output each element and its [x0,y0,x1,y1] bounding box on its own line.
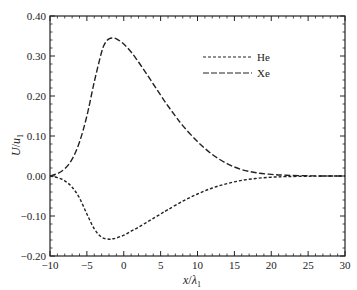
y-axis-label: U/u1 [9,134,25,156]
legend-label-xe: Xe [257,67,270,79]
legend: He Xe [203,51,270,79]
x-tick-labels: −10−5051015202530 [41,259,351,271]
plot-frame [50,16,345,256]
x-tick-label: 5 [158,259,164,271]
major-ticks [50,16,345,256]
x-tick-label: 30 [340,259,352,271]
y-tick-label: −0.20 [21,250,47,262]
y-tick-label: 0.30 [27,50,47,62]
x-tick-label: 25 [303,259,315,271]
y-tick-label: −0.10 [21,210,47,222]
series-line-xe [50,38,345,176]
line-chart: −10−5051015202530 −0.20−0.100.000.100.20… [0,0,357,290]
x-tick-label: 20 [266,259,278,271]
x-tick-label: 0 [121,259,127,271]
x-tick-label: 10 [192,259,204,271]
x-tick-label: 15 [229,259,241,271]
x-tick-label: −5 [81,259,93,271]
series-line-he [50,176,345,239]
legend-label-he: He [257,51,270,63]
minor-ticks [50,16,345,256]
y-tick-label: 0.00 [27,170,47,182]
y-tick-label: 0.40 [27,10,47,22]
series-lines [50,38,345,239]
y-tick-label: 0.10 [27,130,47,142]
x-axis-label: x/λ1 [182,273,201,289]
y-tick-label: 0.20 [27,90,47,102]
